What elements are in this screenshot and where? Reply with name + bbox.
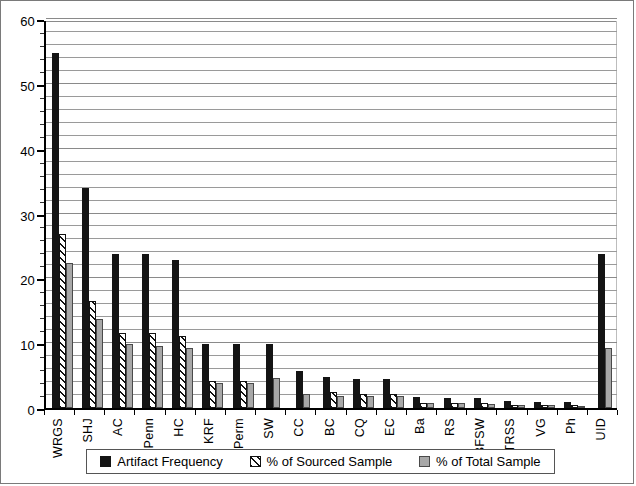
chart-legend: Artifact Frequency% of Sourced Sample% o… [86, 449, 555, 474]
bar [209, 381, 216, 408]
bar [383, 379, 390, 408]
bar [571, 405, 578, 408]
bar-group [233, 19, 254, 408]
x-axis-tick-label: Perm [233, 418, 246, 449]
bar [89, 301, 96, 408]
legend-label: % of Sourced Sample [267, 455, 393, 468]
x-axis-tick-label: KRF [203, 418, 216, 444]
bar [564, 402, 571, 408]
x-axis-tick-label: Penn [143, 418, 156, 448]
bar [541, 405, 548, 408]
bar [353, 379, 360, 408]
x-tick-mark [225, 410, 226, 415]
bar-group [296, 19, 310, 408]
bar [273, 378, 280, 408]
x-tick-mark [527, 410, 528, 415]
x-axis-tick-label: WRGS [52, 418, 65, 458]
bar-group [383, 19, 404, 408]
bar [458, 403, 465, 408]
legend-swatch-icon [250, 456, 261, 467]
legend-item: % of Total Sample [419, 455, 541, 468]
bar-group [534, 19, 555, 408]
bar [413, 397, 420, 408]
x-tick-mark [617, 410, 618, 415]
bar [504, 401, 511, 408]
bar [216, 383, 223, 408]
x-axis-tick-label: TRSS [504, 418, 517, 453]
bar [518, 405, 525, 408]
y-tick-mark-major [37, 409, 44, 411]
x-tick-mark [134, 410, 135, 415]
bar [119, 333, 126, 408]
bar [59, 234, 66, 408]
bar [112, 254, 119, 408]
bar [444, 398, 451, 408]
bar [397, 396, 404, 408]
bar [179, 336, 186, 408]
bar [247, 383, 254, 408]
y-tick-mark-major [37, 85, 44, 87]
x-axis-tick-label: BC [324, 418, 337, 436]
y-axis-tick-label: 20 [20, 274, 35, 287]
bar [66, 263, 73, 408]
bar [233, 344, 240, 408]
bar-group [112, 19, 133, 408]
bar [296, 371, 303, 408]
bar-group [598, 19, 612, 408]
legend-item: % of Sourced Sample [250, 455, 393, 468]
bar [598, 254, 605, 408]
bar [172, 260, 179, 408]
y-axis-tick-label: 10 [20, 339, 35, 352]
bar [390, 394, 397, 408]
bar [511, 405, 518, 408]
bar [126, 344, 133, 408]
x-tick-mark [44, 410, 45, 415]
bar-group [172, 19, 193, 408]
x-tick-mark [255, 410, 256, 415]
bar-group [52, 19, 73, 408]
bar [149, 333, 156, 408]
x-tick-mark [346, 410, 347, 415]
bar [548, 405, 555, 408]
y-axis-tick-label: 0 [28, 404, 35, 417]
x-axis-tick-label: UID [595, 418, 608, 440]
legend-item: Artifact Frequency [100, 455, 223, 468]
bar-group [142, 19, 163, 408]
legend-label: % of Total Sample [436, 455, 541, 468]
y-axis-tick-label: 30 [20, 209, 35, 222]
bar [427, 403, 434, 408]
x-axis-tick-label: Ph [565, 418, 578, 434]
x-axis-tick-label: CQ [354, 418, 367, 437]
chart-figure: 0102030405060 WRGSSHJACPennHCKRFPermSWCC… [0, 0, 634, 484]
x-axis-tick-label: AC [112, 418, 125, 436]
x-axis-tick-label: CC [293, 418, 306, 437]
bar [82, 188, 89, 408]
x-tick-mark [195, 410, 196, 415]
bar [142, 254, 149, 408]
bar-series-container [46, 21, 617, 408]
x-axis-tick-label: Ba [414, 418, 427, 434]
bar [420, 403, 427, 408]
bar [578, 406, 585, 408]
bar [605, 348, 612, 408]
bar-group [266, 19, 280, 408]
y-tick-mark-major [37, 215, 44, 217]
bar-group [413, 19, 434, 408]
legend-swatch-icon [100, 456, 111, 467]
bar [323, 377, 330, 408]
y-axis-tick-label: 40 [20, 144, 35, 157]
bar [96, 319, 103, 408]
x-axis-tick-label: HC [173, 418, 186, 437]
x-axis-tick-label: SW [263, 418, 276, 439]
bar [367, 396, 374, 408]
bar-group [474, 19, 495, 408]
bar [481, 403, 488, 408]
y-axis: 0102030405060 [1, 1, 44, 410]
y-tick-mark-major [37, 344, 44, 346]
x-tick-mark [104, 410, 105, 415]
bar [303, 394, 310, 408]
bar [266, 344, 273, 408]
x-axis-tick-label: EC [384, 418, 397, 436]
legend-label: Artifact Frequency [117, 455, 223, 468]
bar [240, 381, 247, 408]
